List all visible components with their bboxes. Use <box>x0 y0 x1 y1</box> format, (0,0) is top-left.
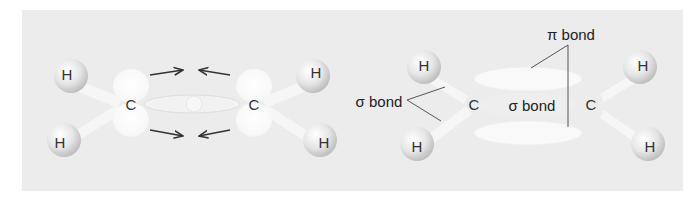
overlap-center <box>186 96 202 112</box>
atom-label-h: H <box>319 135 330 150</box>
pi-bond-leader-line <box>531 45 568 68</box>
atom-label-h: H <box>311 65 322 80</box>
sigma-ch-leader-line <box>407 100 441 121</box>
atom-label-h: H <box>62 67 73 82</box>
atom-label-c: C <box>126 97 137 112</box>
arrow-right-icon <box>150 70 183 75</box>
pi-bond-lower-lobe <box>474 121 582 145</box>
pi-bond-label: π bond <box>547 27 595 42</box>
atom-label-c: C <box>586 97 597 112</box>
atom-label-c: C <box>249 97 260 112</box>
atom-label-h: H <box>638 58 649 73</box>
arrow-left-icon <box>199 70 230 75</box>
sigma-bond-cc-label: σ bond <box>509 98 556 113</box>
sigma-bond-ch-label: σ bond <box>356 94 403 109</box>
pi-bond-upper-lobe <box>474 67 582 91</box>
arrow-left-icon <box>199 130 230 136</box>
left-molecule <box>47 59 337 157</box>
atom-label-h: H <box>645 139 656 154</box>
atom-label-h: H <box>419 58 430 73</box>
atom-label-c: C <box>469 97 480 112</box>
sigma-ch-leader-line <box>407 87 445 100</box>
arrow-right-icon <box>150 130 183 136</box>
atom-label-h: H <box>412 139 423 154</box>
atom-label-h: H <box>55 135 66 150</box>
